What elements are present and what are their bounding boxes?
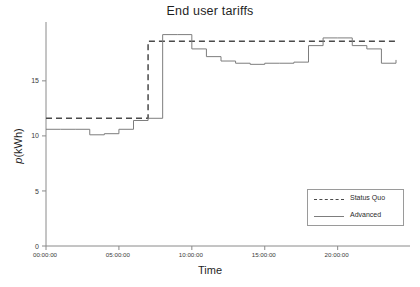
x-axis-label: Time — [0, 264, 420, 276]
plot-area: 05101500:00:0005:00:0010:00:0015:00:0020… — [0, 0, 420, 287]
legend-swatch-dashed-icon — [314, 199, 344, 200]
x-tick-label: 05:00:00 — [106, 251, 131, 258]
legend: Status Quo Advanced — [307, 189, 404, 226]
y-tick-label: 10 — [31, 132, 39, 139]
x-tick-label: 15:00:00 — [252, 251, 277, 258]
x-tick-label: 20:00:00 — [325, 251, 350, 258]
series-line-advanced — [46, 35, 396, 135]
legend-item-status-quo: Status Quo — [308, 193, 403, 207]
series-line-status-quo — [46, 41, 396, 118]
legend-item-advanced: Advanced — [308, 210, 403, 224]
x-tick-label: 10:00:00 — [179, 251, 204, 258]
chart-figure: End user tariffs 05101500:00:0005:00:001… — [0, 0, 420, 287]
y-tick-label: 0 — [35, 243, 39, 250]
legend-label-status-quo: Status Quo — [350, 194, 385, 201]
y-tick-label: 5 — [35, 188, 39, 195]
y-axis-label: p(kWh) — [12, 86, 24, 206]
x-tick-label: 00:00:00 — [33, 251, 58, 258]
legend-label-advanced: Advanced — [350, 211, 381, 218]
y-tick-label: 15 — [31, 77, 39, 84]
legend-swatch-solid-icon — [314, 216, 344, 217]
